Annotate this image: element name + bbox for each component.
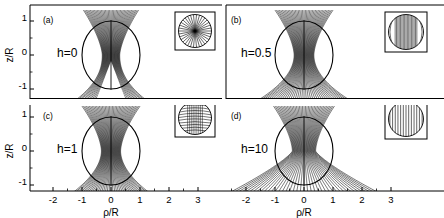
panel-a: (a) h=0 1 0 -1 [0, 0, 222, 105]
panel-c: (c) h=1 1 0 -1 -2 -1 0 1 2 3 ρ/R [0, 105, 222, 218]
yaxis-title-bottom-svg: z/R [0, 105, 20, 218]
panel-b-tag: (b) [231, 15, 242, 25]
yaxis-title-top-svg: z/R [0, 0, 20, 105]
panel-a-ytick-0: 0 [22, 46, 27, 57]
panel-b-h-label: h=0.5 [241, 46, 272, 60]
figure-root: (a) h=0 1 0 -1 (b) h=0.5 (c) h=1 1 0 -1 … [0, 0, 444, 218]
panel-d: (d) h=10 -3 -2 -1 0 1 2 3 ρ/R [222, 105, 444, 218]
panel-c-xtick-m2: -2 [49, 194, 57, 205]
panel-c-xtick-3: 3 [195, 194, 200, 205]
panel-a-svg: (a) h=0 1 0 -1 [0, 0, 222, 105]
panel-c-ytick-0: 0 [22, 142, 27, 153]
panel-d-xtick-2: 2 [359, 194, 364, 205]
panel-b-svg: (b) h=0.5 [222, 0, 444, 105]
panel-d-xtick-3: 3 [388, 194, 393, 205]
panel-a-ytick-1: 1 [22, 12, 27, 23]
panel-d-h-label: h=10 [241, 142, 268, 156]
panel-c-xaxis-title: ρ/R [103, 207, 119, 218]
panel-c-svg: (c) h=1 1 0 -1 -2 -1 0 1 2 3 ρ/R [0, 105, 222, 218]
panel-a-h-label: h=0 [57, 46, 78, 60]
panel-c-tag: (c) [43, 111, 53, 121]
panel-d-xtick-m2: -2 [242, 194, 250, 205]
yaxis-title-bottom: z/R [4, 144, 15, 159]
panel-c-xtick-2: 2 [166, 194, 171, 205]
yaxis-title-top: z/R [4, 48, 15, 63]
panel-a-tag: (a) [43, 15, 54, 25]
panel-d-xtick-1: 1 [330, 194, 335, 205]
panel-d-xaxis-title: ρ/R [296, 207, 312, 218]
panel-c-h-label: h=1 [57, 142, 78, 156]
panel-c-xtick-1: 1 [137, 194, 142, 205]
panel-d-xtick-m1: -1 [271, 194, 279, 205]
panel-b: (b) h=0.5 [222, 0, 444, 105]
panel-d-xtick-0: 0 [301, 194, 306, 205]
panel-d-tag: (d) [231, 111, 242, 121]
panel-c-xtick-m1: -1 [78, 194, 86, 205]
panel-c-ytick-1: 1 [22, 108, 27, 119]
panel-d-svg: (d) h=10 -3 -2 -1 0 1 2 3 ρ/R [222, 105, 444, 218]
panel-c-xtick-0: 0 [108, 194, 113, 205]
